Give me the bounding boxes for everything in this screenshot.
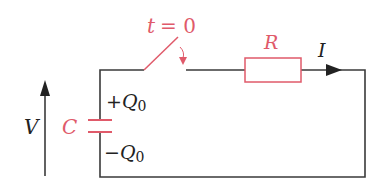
capacitor-label: C — [62, 115, 77, 139]
voltage-arrow — [40, 80, 50, 176]
current-label: I — [317, 39, 326, 61]
switch — [144, 37, 184, 70]
resistor — [245, 58, 301, 82]
switch-arrow-icon — [179, 57, 187, 65]
current-arrow-icon — [326, 64, 342, 76]
switch-blade — [144, 37, 178, 70]
charge-top-label: +Q0 — [106, 90, 146, 114]
charge-bottom-label: −Q0 — [104, 141, 144, 165]
voltage-label: V — [24, 115, 41, 139]
switch-motion-arc — [180, 47, 184, 58]
capacitor — [88, 120, 112, 132]
switch-label: t= 0 — [147, 14, 196, 38]
voltage-arrowhead-icon — [40, 80, 50, 96]
circuit-diagram: t= 0 R I C V +Q0 −Q0 — [0, 0, 386, 190]
resistor-label: R — [263, 31, 278, 53]
